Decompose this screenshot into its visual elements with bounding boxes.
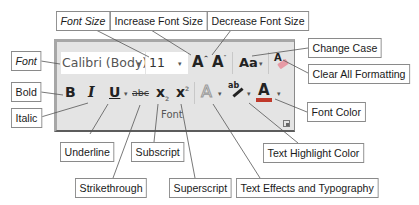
callout-text-effects: Text Effects and Typography (236, 178, 378, 198)
italic-button[interactable]: I (88, 85, 95, 99)
separator (194, 82, 195, 104)
callout-font-size: Font Size (56, 11, 110, 31)
callout-font: Font (11, 51, 41, 71)
dialog-launcher-icon[interactable] (283, 120, 290, 127)
callout-text-highlight-color: Text Highlight Color (263, 143, 364, 163)
underline-button[interactable]: U (109, 85, 120, 99)
decrease-font-size-icon: A (212, 53, 224, 71)
change-case-button[interactable]: Aa (239, 56, 258, 69)
chevron-down-icon[interactable]: ▾ (277, 90, 281, 98)
separator (232, 52, 233, 74)
strikethrough-icon: abc (132, 87, 149, 98)
callout-change-case: Change Case (308, 38, 382, 58)
chevron-down-icon[interactable]: ▾ (247, 90, 251, 98)
font-name-combobox[interactable]: Calibri (Body) (61, 52, 145, 74)
decrease-font-size-button[interactable]: Aˇ (212, 55, 227, 70)
chevron-down-icon[interactable]: ▾ (137, 60, 141, 68)
font-name-value: Calibri (Body) (62, 55, 145, 70)
callout-font-color: Font Color (307, 102, 366, 122)
superscript-button[interactable]: x2 (176, 85, 189, 99)
text-highlight-button[interactable]: ab (228, 82, 248, 102)
callout-subscript: Subscript (131, 142, 184, 162)
font-color-swatch (256, 98, 272, 102)
italic-icon: I (88, 84, 95, 100)
separator (268, 52, 269, 74)
callout-decrease-font-size: Decrease Font Size (207, 11, 309, 31)
subscript-digit: 2 (165, 95, 169, 102)
font-color-icon: A (258, 83, 270, 98)
underline-icon: U (109, 84, 120, 100)
text-effects-icon: A (201, 82, 212, 101)
callout-underline: Underline (60, 142, 114, 162)
text-effects-button[interactable]: A (201, 84, 212, 100)
strikethrough-button[interactable]: abc (132, 88, 149, 98)
callout-clear-all-formatting: Clear All Formatting (308, 64, 410, 84)
callout-increase-font-size: Increase Font Size (110, 11, 207, 31)
clear-formatting-button[interactable]: A (272, 53, 290, 71)
callout-bold: Bold (11, 82, 41, 102)
font-size-value: 11 (149, 55, 165, 70)
bold-icon: B (65, 84, 76, 100)
group-label: Font (161, 109, 183, 120)
increase-font-size-icon: A (192, 53, 204, 71)
change-case-icon: Aa (239, 55, 258, 70)
cropped-heading-text (20, 0, 220, 2)
font-ribbon-group: Calibri (Body) ▾ 11 ▾ A^ Aˇ Aa ▾ A B I U… (54, 39, 295, 132)
subscript-icon: x (156, 84, 165, 100)
callout-italic: Italic (11, 108, 42, 128)
chevron-down-icon[interactable]: ▾ (124, 90, 128, 98)
superscript-digit: 2 (185, 85, 189, 92)
chevron-down-icon[interactable]: ▾ (259, 60, 263, 68)
chevron-down-icon[interactable]: ▾ (218, 90, 222, 98)
chevron-down-icon[interactable]: ▾ (178, 60, 182, 68)
callout-strikethrough: Strikethrough (75, 178, 147, 198)
font-color-button[interactable]: A (256, 83, 272, 103)
superscript-icon: x (176, 84, 185, 100)
callout-superscript: Superscript (169, 178, 232, 198)
highlighter-icon: ab (228, 82, 239, 90)
bold-button[interactable]: B (65, 85, 76, 99)
subscript-button[interactable]: x2 (156, 85, 169, 102)
increase-font-size-button[interactable]: A^ (192, 55, 209, 70)
